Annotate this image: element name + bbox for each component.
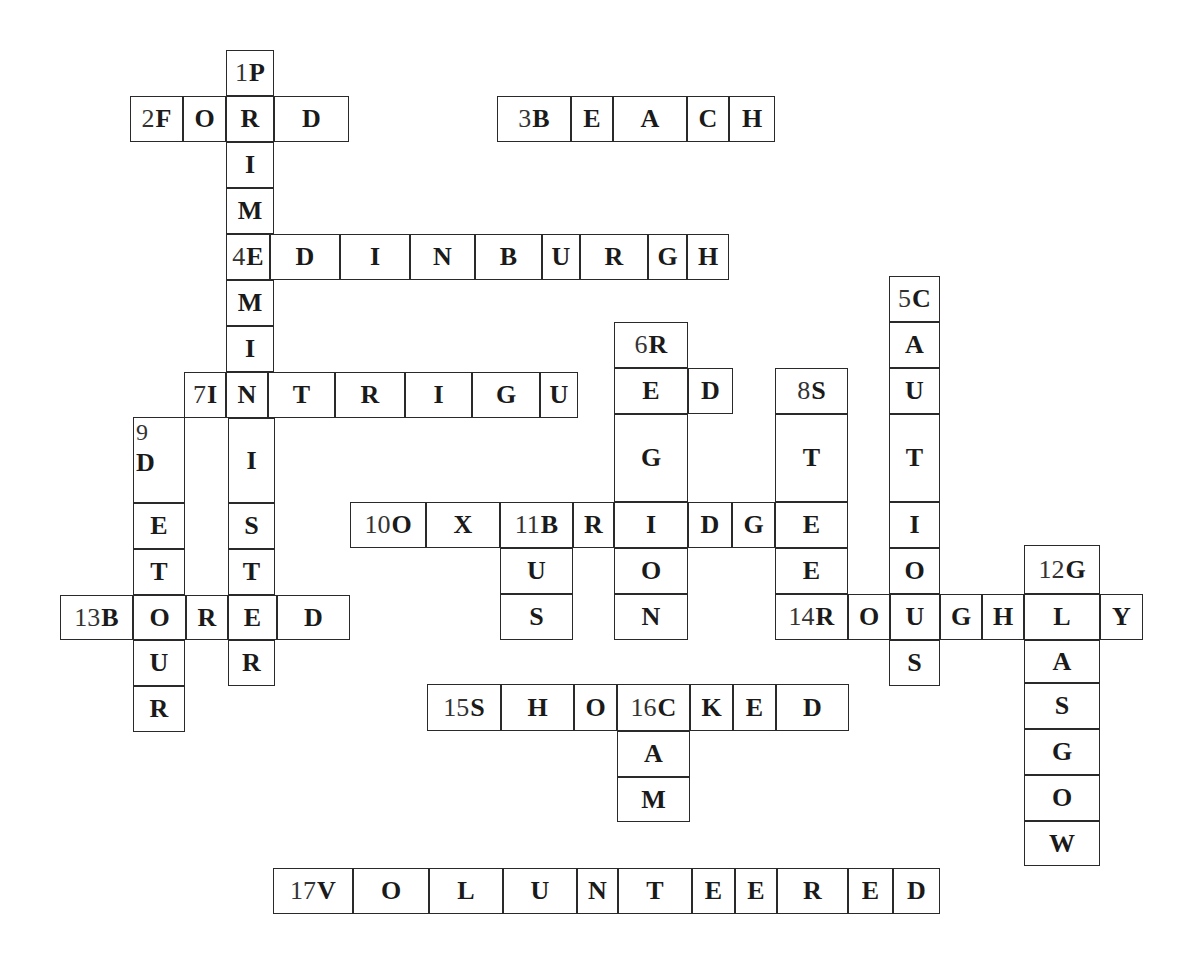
crossword-cell[interactable]: 17V [273, 868, 353, 914]
crossword-cell[interactable]: M [226, 188, 274, 234]
crossword-cell[interactable]: E [133, 503, 185, 549]
crossword-cell[interactable]: I [226, 326, 274, 372]
crossword-cell[interactable]: 8S [775, 368, 848, 414]
crossword-cell[interactable]: L [429, 868, 503, 914]
crossword-cell[interactable]: 14R [775, 594, 848, 640]
crossword-cell[interactable]: D [893, 868, 940, 914]
crossword-cell[interactable]: L [1024, 594, 1100, 640]
crossword-cell[interactable]: R [573, 502, 614, 548]
crossword-cell[interactable]: T [228, 549, 275, 595]
crossword-cell[interactable]: S [228, 503, 275, 549]
crossword-cell[interactable]: D [688, 502, 732, 548]
crossword-cell[interactable]: N [226, 372, 268, 418]
crossword-cell[interactable]: M [617, 777, 690, 822]
crossword-cell[interactable]: R [777, 868, 848, 914]
crossword-cell[interactable]: 5C [889, 276, 940, 322]
crossword-cell[interactable]: 10O [350, 502, 426, 548]
crossword-cell[interactable]: B [475, 234, 542, 280]
crossword-cell[interactable]: N [410, 234, 475, 280]
crossword-cell[interactable]: W [1024, 821, 1100, 866]
crossword-cell[interactable]: D [277, 595, 350, 640]
crossword-cell[interactable]: G [940, 594, 982, 640]
crossword-cell[interactable]: X [426, 502, 500, 548]
crossword-cell[interactable]: U [889, 368, 940, 414]
crossword-cell[interactable]: O [614, 548, 688, 594]
crossword-cell[interactable]: E [775, 548, 848, 594]
crossword-cell[interactable]: 1P [226, 50, 274, 96]
crossword-cell[interactable]: 13B [60, 595, 133, 640]
crossword-cell[interactable]: 15S [427, 684, 501, 731]
crossword-cell[interactable]: I [405, 372, 472, 418]
crossword-cell[interactable]: 3B [497, 96, 571, 142]
crossword-cell[interactable]: R [226, 96, 274, 142]
crossword-cell[interactable]: G [614, 414, 688, 502]
crossword-cell[interactable]: E [692, 868, 735, 914]
crossword-cell[interactable]: U [542, 234, 580, 280]
crossword-cell[interactable]: U [500, 548, 573, 594]
crossword-cell[interactable]: I [228, 418, 275, 503]
crossword-cell[interactable]: I [614, 502, 688, 548]
crossword-cell[interactable]: I [340, 234, 410, 280]
crossword-cell[interactable]: D [274, 96, 349, 142]
crossword-cell[interactable]: S [889, 640, 940, 686]
crossword-cell[interactable]: G [472, 372, 540, 418]
crossword-cell[interactable]: K [690, 684, 733, 731]
crossword-cell[interactable]: 4E [226, 234, 270, 280]
crossword-cell[interactable]: M [226, 280, 274, 326]
crossword-cell[interactable]: U [133, 640, 185, 686]
crossword-cell[interactable]: O [1024, 775, 1100, 821]
crossword-cell[interactable]: 6R [614, 322, 688, 368]
crossword-cell[interactable]: R [228, 640, 275, 686]
crossword-cell[interactable]: 9D [133, 417, 185, 503]
crossword-cell[interactable]: S [1024, 683, 1100, 729]
crossword-cell[interactable]: H [501, 684, 574, 731]
crossword-cell[interactable]: A [1024, 640, 1100, 683]
crossword-cell[interactable]: N [577, 868, 618, 914]
crossword-cell[interactable]: H [687, 234, 729, 280]
crossword-cell[interactable]: R [186, 595, 228, 640]
crossword-cell[interactable]: D [270, 234, 340, 280]
crossword-cell[interactable]: O [848, 594, 890, 640]
crossword-cell[interactable]: H [982, 594, 1024, 640]
crossword-cell[interactable]: R [580, 234, 648, 280]
crossword-cell[interactable]: E [228, 595, 277, 640]
crossword-cell[interactable]: D [688, 368, 733, 414]
crossword-cell[interactable]: E [571, 96, 613, 142]
crossword-cell[interactable]: Y [1100, 594, 1143, 640]
crossword-cell[interactable]: O [889, 548, 940, 594]
crossword-cell[interactable]: U [503, 868, 577, 914]
crossword-cell[interactable]: R [133, 686, 185, 732]
crossword-cell[interactable]: O [183, 96, 226, 142]
crossword-cell[interactable]: A [889, 322, 940, 368]
crossword-cell[interactable]: 11B [500, 502, 573, 548]
crossword-cell[interactable]: G [648, 234, 687, 280]
crossword-cell[interactable]: C [687, 96, 729, 142]
crossword-cell[interactable]: T [268, 372, 335, 418]
crossword-cell[interactable]: 7I [184, 372, 226, 418]
crossword-cell[interactable]: 12G [1024, 545, 1100, 594]
crossword-cell[interactable]: E [848, 868, 893, 914]
crossword-cell[interactable]: N [614, 594, 688, 640]
crossword-cell[interactable]: T [618, 868, 692, 914]
crossword-cell[interactable]: E [733, 684, 776, 731]
crossword-cell[interactable]: E [775, 502, 848, 548]
crossword-cell[interactable]: T [889, 414, 940, 502]
crossword-cell[interactable]: E [614, 368, 688, 414]
crossword-cell[interactable]: D [776, 684, 849, 731]
crossword-cell[interactable]: T [775, 414, 848, 502]
crossword-cell[interactable]: O [133, 595, 186, 640]
crossword-cell[interactable]: O [574, 684, 617, 731]
crossword-cell[interactable]: E [735, 868, 777, 914]
crossword-cell[interactable]: I [226, 142, 274, 188]
crossword-cell[interactable]: O [353, 868, 429, 914]
crossword-cell[interactable]: G [732, 502, 775, 548]
crossword-cell[interactable]: 16C [617, 684, 690, 731]
crossword-cell[interactable]: 2F [130, 96, 183, 142]
crossword-cell[interactable]: U [540, 372, 578, 418]
crossword-cell[interactable]: H [729, 96, 775, 142]
crossword-cell[interactable]: T [133, 549, 185, 595]
crossword-cell[interactable]: A [617, 731, 690, 777]
crossword-cell[interactable]: S [500, 594, 573, 640]
crossword-cell[interactable]: G [1024, 729, 1100, 775]
crossword-cell[interactable]: A [613, 96, 687, 142]
